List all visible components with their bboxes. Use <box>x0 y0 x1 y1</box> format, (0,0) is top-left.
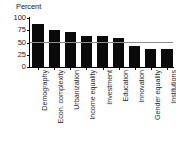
x-axis-label: Institutions <box>170 70 176 104</box>
x-tick-mark <box>135 68 136 70</box>
x-axis-label: Investment <box>106 70 114 105</box>
x-tick-mark <box>54 68 55 70</box>
x-tick-mark <box>151 68 152 70</box>
bar <box>129 46 140 67</box>
y-axis-title: Percent <box>16 2 41 11</box>
bar <box>32 24 43 67</box>
x-axis-label: Innovation <box>138 70 146 103</box>
x-axis-label: Urbanization <box>73 70 81 110</box>
x-tick-mark <box>167 68 168 70</box>
x-axis-label: Econ. complexity <box>57 70 65 124</box>
bar <box>145 49 156 67</box>
bar <box>97 36 108 67</box>
bar-series <box>29 12 174 68</box>
y-tick-label-75: 75 <box>10 26 26 34</box>
x-axis-label: Demography <box>41 70 49 111</box>
x-axis-label: Education <box>122 70 130 102</box>
y-tick-label-100: 100 <box>10 14 26 22</box>
bar-chart: Percent 100 75 50 25 0 DemographyEcon. c… <box>0 0 176 143</box>
reference-line-50 <box>30 42 173 44</box>
bar <box>65 32 76 67</box>
x-tick-mark <box>119 68 120 70</box>
x-axis-label: Income equality <box>89 70 97 120</box>
y-tick-label-0: 0 <box>10 63 26 71</box>
x-axis-labels: DemographyEcon. complexityUrbanizationIn… <box>29 68 174 143</box>
bar <box>49 30 60 67</box>
x-axis-label: Gender equality <box>154 70 162 120</box>
y-tick-label-50: 50 <box>10 39 26 47</box>
y-tick-label-25: 25 <box>10 51 26 59</box>
x-tick-mark <box>103 68 104 70</box>
bar <box>161 49 172 67</box>
bar <box>81 36 92 67</box>
x-tick-mark <box>38 68 39 70</box>
